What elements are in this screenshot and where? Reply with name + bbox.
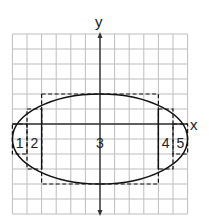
x-axis-label: x xyxy=(190,116,198,133)
rectangle-label-5: 5 xyxy=(176,135,184,151)
rectangle-label-2: 2 xyxy=(30,135,38,151)
rectangle-label-3: 3 xyxy=(96,135,104,151)
y-axis-arrow-down-icon xyxy=(98,210,103,216)
ellipse-rectangle-diagram: y x 12345 xyxy=(0,0,209,224)
y-axis-arrow-up-icon xyxy=(98,32,103,38)
axes: y x xyxy=(12,13,198,216)
rectangle-label-1: 1 xyxy=(16,135,24,151)
y-axis-label: y xyxy=(95,13,103,30)
rectangle-label-4: 4 xyxy=(162,135,170,151)
